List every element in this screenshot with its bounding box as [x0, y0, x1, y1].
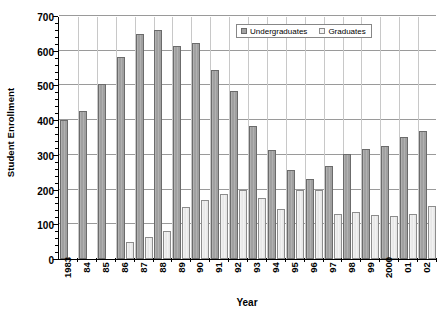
x-axis-tick-label: 98	[342, 262, 361, 300]
bar-group	[248, 17, 267, 259]
y-axis-tick-label: 700	[24, 12, 54, 23]
x-axis-tick-label-text: 91	[213, 262, 224, 273]
bar-undergraduates	[343, 154, 351, 259]
bar-undergraduates	[192, 43, 200, 259]
x-axis-tick-label: 99	[360, 262, 379, 300]
x-axis-tick-label: 97	[323, 262, 342, 300]
x-axis-tick-label: 91	[209, 262, 228, 300]
x-axis-tick-label-text: 02	[421, 262, 432, 273]
bar-group	[399, 17, 418, 259]
x-axis-tick-label-text: 1983	[62, 257, 73, 278]
bar-graduates	[296, 190, 304, 259]
legend-label-undergraduates: Undergraduates	[250, 27, 307, 36]
x-axis-tick-label-text: 85	[100, 262, 111, 273]
bar-group	[361, 17, 380, 259]
legend-item-undergraduates: Undergraduates	[241, 27, 307, 36]
x-axis-tick-label-text: 96	[308, 262, 319, 273]
x-axis-tick-label-text: 95	[289, 262, 300, 273]
bar-group	[59, 17, 78, 259]
bar-group	[97, 17, 116, 259]
x-axis-tick-label: 87	[134, 262, 153, 300]
x-axis-tick-label-text: 88	[156, 262, 167, 273]
x-axis-tick-label-text: 93	[251, 262, 262, 273]
bar-undergraduates	[362, 149, 370, 259]
bar-undergraduates	[60, 120, 68, 259]
legend-item-graduates: Graduates	[319, 27, 365, 36]
bar-group	[135, 17, 154, 259]
bar-graduates	[239, 190, 247, 259]
bar-graduates	[352, 212, 360, 259]
bar-graduates	[409, 214, 417, 259]
legend-label-graduates: Graduates	[328, 27, 365, 36]
bar-undergraduates	[79, 111, 87, 259]
x-axis-tick-label-text: 97	[327, 262, 338, 273]
x-axis-tick-label: 88	[153, 262, 172, 300]
bar-graduates	[201, 200, 209, 259]
x-axis-tick-labels: 1983848586878889909192939495969798992000…	[58, 262, 436, 302]
y-axis-tick-label: 500	[24, 81, 54, 92]
bar-undergraduates	[325, 166, 333, 259]
bars-layer	[59, 17, 436, 259]
bar-group	[286, 17, 305, 259]
x-axis-tick-label-text: 01	[402, 262, 413, 273]
x-axis-tick-label-text: 99	[364, 262, 375, 273]
x-axis-tick-label: 92	[228, 262, 247, 300]
bar-undergraduates	[211, 70, 219, 259]
bar-undergraduates	[381, 146, 389, 259]
bar-undergraduates	[268, 150, 276, 259]
bar-graduates	[315, 190, 323, 259]
x-axis-tick-label-text: 98	[345, 262, 356, 273]
x-axis-tick-label: 96	[304, 262, 323, 300]
bar-graduates	[258, 198, 266, 259]
bar-group	[116, 17, 135, 259]
bar-graduates	[163, 231, 171, 259]
y-axis-tick-label: 400	[24, 116, 54, 127]
x-axis-tick-label-text: 87	[138, 262, 149, 273]
bar-group	[154, 17, 173, 259]
y-axis-tick-label: 300	[24, 150, 54, 161]
bar-group	[172, 17, 191, 259]
y-axis-tick-label: 200	[24, 185, 54, 196]
y-axis-tick-labels: 0100200300400500600700	[22, 17, 54, 260]
legend-swatch-undergraduates-icon	[241, 28, 247, 34]
bar-graduates	[182, 207, 190, 259]
bar-group	[78, 17, 97, 259]
bar-group	[380, 17, 399, 259]
bar-graduates	[277, 209, 285, 259]
legend-swatch-graduates-icon	[319, 28, 325, 34]
bar-undergraduates	[136, 34, 144, 259]
x-axis-tick-mark	[436, 258, 437, 262]
bar-group	[418, 17, 437, 259]
x-axis-tick-label: 84	[77, 262, 96, 300]
bar-graduates	[390, 216, 398, 259]
bar-undergraduates	[400, 137, 408, 259]
x-axis-tick-label: 93	[247, 262, 266, 300]
x-axis-tick-label: 85	[96, 262, 115, 300]
x-axis-tick-label-text: 2000	[383, 257, 394, 278]
plot-area	[58, 17, 436, 260]
bar-group	[229, 17, 248, 259]
y-axis-tick-label: 0	[24, 255, 54, 266]
x-axis-tick-label-text: 89	[175, 262, 186, 273]
bar-group	[210, 17, 229, 259]
x-axis-tick-label: 02	[417, 262, 436, 300]
bar-undergraduates	[173, 46, 181, 259]
bar-undergraduates	[419, 131, 427, 259]
bar-group	[305, 17, 324, 259]
x-axis-tick-label-text: 90	[194, 262, 205, 273]
x-axis-title: Year	[58, 297, 436, 308]
x-axis-tick-label: 2000	[379, 262, 398, 300]
bar-undergraduates	[230, 91, 238, 259]
bar-undergraduates	[154, 30, 162, 259]
x-axis-tick-label-text: 94	[270, 262, 281, 273]
x-axis-tick-label-text: 86	[119, 262, 130, 273]
x-axis-tick-label: 90	[190, 262, 209, 300]
x-axis-tick-label: 89	[171, 262, 190, 300]
gridline	[59, 15, 436, 16]
bar-graduates	[371, 215, 379, 259]
x-axis-tick-label: 86	[115, 262, 134, 300]
x-axis-tick-label: 1983	[58, 262, 77, 300]
bar-group	[267, 17, 286, 259]
bar-graduates	[220, 194, 228, 259]
bar-undergraduates	[117, 57, 125, 259]
